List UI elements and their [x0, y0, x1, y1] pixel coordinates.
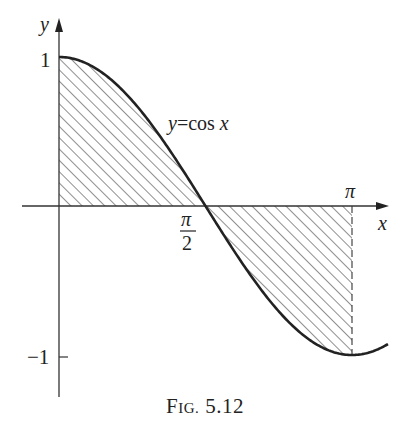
- y-axis-arrow-icon: [55, 18, 63, 32]
- y-axis-label: y: [38, 13, 49, 36]
- caption-prefix: F: [166, 394, 178, 418]
- y-tick-label-one: 1: [40, 48, 51, 72]
- caption-number: 5.12: [205, 394, 244, 418]
- cosine-figure: y 1 −1 x π π 2 y=cos x: [0, 0, 410, 433]
- x-tick-label-half-pi-denominator: 2: [182, 232, 192, 254]
- x-tick-label-pi: π: [345, 180, 356, 202]
- curve-label: y=cos x: [166, 112, 229, 135]
- x-tick-label-half-pi-numerator: π: [181, 208, 192, 230]
- x-axis-arrow-icon: [376, 202, 389, 210]
- caption-prefix-smallcaps: IG.: [178, 400, 199, 416]
- y-tick-label-minus-one: −1: [27, 345, 49, 369]
- figure-caption: FIG. 5.12: [0, 394, 410, 419]
- x-axis-label: x: [377, 212, 387, 234]
